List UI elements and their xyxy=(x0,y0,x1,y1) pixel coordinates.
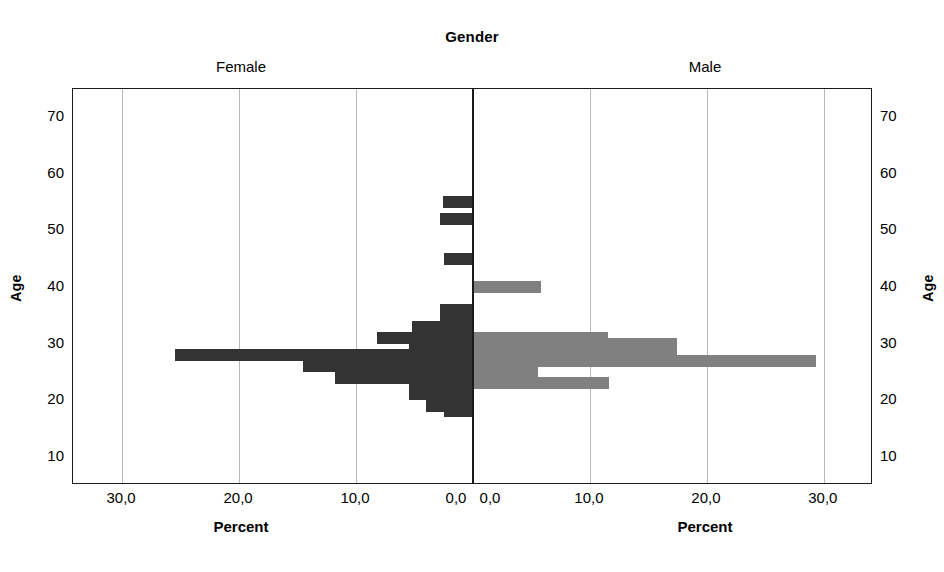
bar-female-age-21 xyxy=(409,388,473,400)
y-tick-label-left-60: 60 xyxy=(30,165,64,180)
chart-title: Gender xyxy=(0,28,944,45)
y-tick-label-left-30: 30 xyxy=(30,335,64,350)
gridline-vertical xyxy=(707,89,708,483)
bar-female-age-33 xyxy=(412,321,473,333)
bar-female-age-36 xyxy=(440,304,473,316)
bar-male-age-23 xyxy=(473,377,609,389)
bar-female-age-31 xyxy=(377,332,473,344)
panel-caption-female: Female xyxy=(123,58,359,75)
plot-area xyxy=(72,88,872,484)
bar-female-age-26 xyxy=(303,360,473,372)
y-tick-label-left-10: 10 xyxy=(30,448,64,463)
x-axis-title-female: Percent xyxy=(123,518,359,535)
gridline-vertical xyxy=(239,89,240,483)
gridline-vertical xyxy=(122,89,123,483)
y-tick-label-left-40: 40 xyxy=(30,278,64,293)
x-tick-label-female-20,0: 20,0 xyxy=(203,489,273,506)
y-axis-title-right: Age xyxy=(920,258,936,318)
bar-female-age-18 xyxy=(444,405,473,417)
x-tick-label-male-20,0: 20,0 xyxy=(671,489,741,506)
center-axis-divider xyxy=(472,89,474,483)
gridline-vertical xyxy=(824,89,825,483)
x-tick-label-female-30,0: 30,0 xyxy=(86,489,156,506)
y-axis-title-left: Age xyxy=(8,258,24,318)
y-tick-label-right-20: 20 xyxy=(880,391,914,406)
x-axis-title-male: Percent xyxy=(590,518,820,535)
bar-female-age-45 xyxy=(444,253,473,265)
bar-female-age-52 xyxy=(440,213,473,225)
bar-female-age-24 xyxy=(335,372,473,384)
y-tick-label-right-50: 50 xyxy=(880,221,914,236)
bar-male-age-25 xyxy=(473,366,538,378)
y-tick-label-left-50: 50 xyxy=(30,221,64,236)
y-tick-label-right-40: 40 xyxy=(880,278,914,293)
bar-female-age-55 xyxy=(443,196,473,208)
y-tick-label-right-10: 10 xyxy=(880,448,914,463)
y-tick-label-right-70: 70 xyxy=(880,108,914,123)
bar-male-age-40 xyxy=(473,281,541,293)
gridline-vertical xyxy=(356,89,357,483)
x-tick-label-male-30,0: 30,0 xyxy=(788,489,858,506)
x-tick-label-female-10,0: 10,0 xyxy=(320,489,390,506)
bar-female-age-28 xyxy=(175,349,473,361)
bar-male-age-27 xyxy=(473,355,816,367)
x-tick-label-male-10,0: 10,0 xyxy=(554,489,624,506)
gridline-vertical xyxy=(590,89,591,483)
population-pyramid-chart: Gender Female Male Age Age 7070606050504… xyxy=(0,0,944,572)
panel-caption-male: Male xyxy=(590,58,820,75)
y-tick-label-left-70: 70 xyxy=(30,108,64,123)
y-tick-label-left-20: 20 xyxy=(30,391,64,406)
y-tick-label-right-60: 60 xyxy=(880,165,914,180)
y-tick-label-right-30: 30 xyxy=(880,335,914,350)
bar-male-age-30 xyxy=(473,338,677,350)
x-tick-label-male-0: 0,0 xyxy=(455,489,525,506)
